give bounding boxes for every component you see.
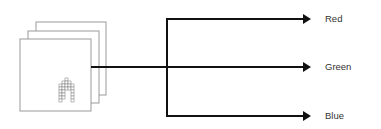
connector-lines [91, 19, 305, 116]
arrowhead-green-icon [303, 62, 311, 72]
output-label-red: Red [325, 13, 342, 25]
arrowheads [303, 14, 311, 121]
image-layer-front [20, 39, 91, 111]
channel-split-diagram [0, 0, 381, 129]
arrowhead-red-icon [303, 14, 311, 24]
output-label-blue: Blue [325, 110, 344, 122]
arrowhead-blue-icon [303, 111, 311, 121]
output-label-green: Green [325, 61, 351, 73]
